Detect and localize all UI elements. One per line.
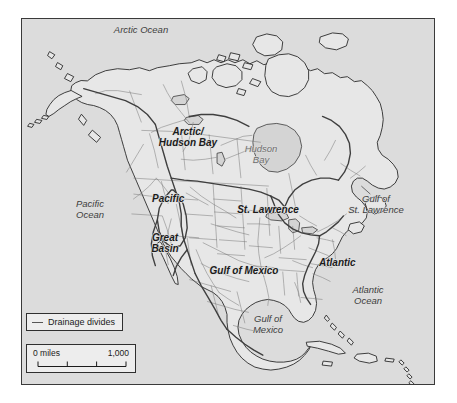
scale-bar-left-label: 0 miles bbox=[33, 348, 60, 358]
ellesmere-island bbox=[253, 34, 283, 56]
line-swatch-icon bbox=[32, 322, 43, 323]
scale-bar-right-label: 1,000 bbox=[108, 348, 129, 358]
legend-label: Drainage divides bbox=[48, 317, 115, 327]
scale-bar-graphic bbox=[33, 360, 129, 368]
jamaica bbox=[323, 361, 333, 366]
arctic-island-small-1 bbox=[229, 53, 240, 61]
map-figure: Arctic Ocean Hudson Bay Pacific Ocean Gu… bbox=[0, 0, 457, 403]
scale-bar-labels: 0 miles 1,000 bbox=[33, 348, 129, 358]
legend: Drainage divides bbox=[26, 313, 123, 331]
puerto-rico bbox=[385, 358, 394, 362]
scale-bar: 0 miles 1,000 bbox=[26, 344, 136, 373]
victoria-island bbox=[212, 64, 242, 88]
baffin-island bbox=[265, 54, 309, 97]
